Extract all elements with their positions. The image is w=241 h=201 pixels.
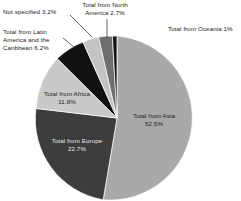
pie-chart: Not specified 3.2% Total from Latin Amer…: [0, 0, 241, 201]
slice-label-asia: Total from Asia 52.5%: [124, 112, 184, 128]
pie-slice-europe[interactable]: [35, 108, 117, 199]
slice-label-europe: Total from Europe 22.7%: [44, 137, 110, 153]
slice-label-not-specified: Not specified 3.2%: [3, 8, 75, 16]
slice-label-latin-america: Total from Latin America and the Caribbe…: [3, 28, 65, 53]
slice-label-africa: Total from Africa 11.8%: [33, 90, 101, 106]
leader-line-not-specified: [70, 15, 92, 37]
slice-label-oceania: Total from Oceania 1%: [168, 25, 241, 33]
slice-label-north-america: Total from North America 2.7%: [76, 1, 134, 17]
